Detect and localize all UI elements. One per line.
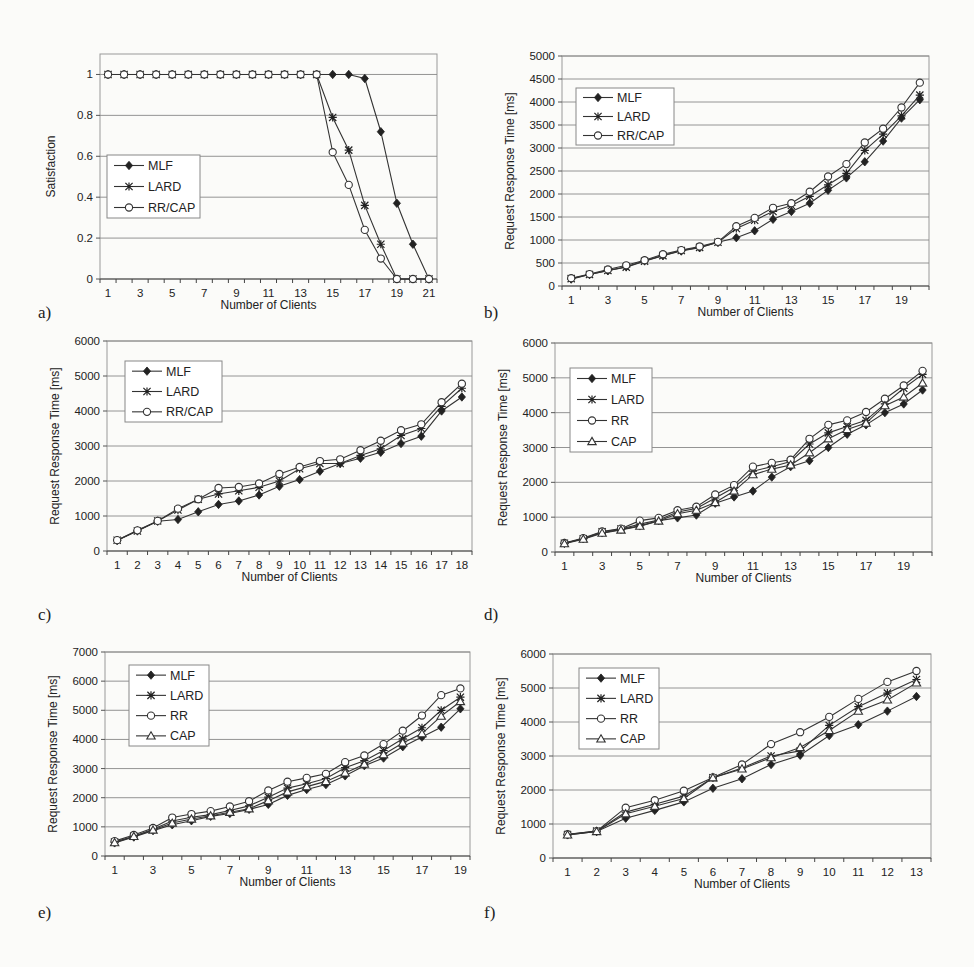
data-point	[738, 775, 745, 783]
y-tick-label: 6000	[74, 335, 100, 347]
x-tick-label: 19	[390, 287, 403, 299]
x-tick-label: 3	[150, 864, 156, 876]
data-point	[680, 787, 687, 794]
x-tick-label: 17	[416, 864, 429, 876]
data-point	[296, 475, 303, 483]
y-tick-label: 5000	[522, 372, 548, 384]
y-tick-label: 3000	[520, 750, 546, 762]
legend-box	[129, 665, 209, 746]
x-tick-label: 4	[175, 559, 182, 571]
panel-label-a: a)	[38, 303, 51, 323]
y-tick-label: 5000	[74, 370, 100, 382]
x-tick-label: 15	[377, 864, 390, 876]
legend-label: LARD	[611, 393, 644, 407]
data-point	[749, 463, 756, 470]
data-point	[377, 255, 384, 262]
legend-marker-circle-icon	[143, 408, 150, 415]
panel-label-e: e)	[38, 903, 51, 923]
data-point	[418, 712, 425, 719]
x-tick-label: 1	[561, 560, 567, 572]
chart-b: 0500100015002000250030003500400045005000…	[487, 30, 974, 300]
x-tick-label: 5	[188, 864, 194, 876]
legend: MLFLARDRR/CAP	[107, 155, 200, 218]
y-tick-label: 500	[536, 257, 555, 269]
y-tick-label: 0	[94, 545, 100, 557]
legend-label: LARD	[617, 110, 650, 124]
x-tick-label: 17	[358, 287, 371, 299]
data-point	[769, 204, 776, 211]
data-point	[855, 695, 862, 702]
x-tick-label: 3	[599, 560, 605, 572]
data-point	[824, 173, 831, 180]
data-point	[235, 483, 242, 490]
y-tick-label: 4000	[529, 96, 555, 108]
x-tick-label: 1	[568, 294, 574, 306]
data-point	[134, 527, 141, 534]
legend-marker-circle-icon	[588, 417, 595, 424]
x-tick-label: 1	[105, 287, 111, 299]
data-point	[297, 71, 304, 78]
data-point	[361, 226, 368, 233]
chart-c: 0100020003000400050006000123456789101112…	[0, 330, 490, 600]
data-point	[217, 71, 224, 78]
chart-panel-e: 0100020003000400050006000700013579111315…	[0, 630, 490, 900]
data-point	[862, 408, 869, 415]
y-axis-title: Request Response Time [ms]	[494, 677, 508, 834]
y-tick-label: 3000	[74, 440, 100, 452]
y-tick-label: 2000	[74, 475, 100, 487]
y-tick-label: 6000	[522, 337, 548, 349]
x-tick-label: 2	[134, 559, 140, 571]
x-tick-label: 5	[169, 287, 175, 299]
data-point	[880, 125, 887, 132]
panel-label-b: b)	[484, 303, 498, 323]
data-point	[281, 71, 288, 78]
data-point	[712, 491, 719, 498]
data-point	[169, 71, 176, 78]
legend-marker-asterisk-icon	[143, 387, 151, 395]
x-axis-title: Number of Clients	[697, 305, 793, 319]
data-point	[345, 181, 352, 188]
data-point	[586, 270, 593, 277]
data-point	[714, 238, 721, 245]
legend-label: LARD	[148, 180, 181, 194]
data-point	[733, 234, 740, 242]
data-point	[276, 470, 283, 477]
y-tick-label: 1500	[529, 211, 555, 223]
x-tick-label: 7	[674, 560, 680, 572]
data-point	[919, 386, 926, 394]
data-point	[751, 227, 758, 235]
data-point	[898, 104, 905, 111]
data-point	[881, 402, 889, 409]
data-point	[361, 74, 368, 82]
data-point	[174, 505, 181, 512]
data-point	[861, 139, 868, 146]
y-tick-label: 3000	[72, 763, 98, 775]
chart-panel-b: 0500100015002000250030003500400045005000…	[487, 30, 974, 300]
x-tick-label: 9	[797, 866, 803, 878]
data-point	[806, 435, 813, 442]
y-tick-label: 0	[549, 280, 555, 292]
data-point	[458, 380, 465, 387]
data-point	[215, 484, 222, 491]
x-tick-label: 17	[435, 559, 448, 571]
x-tick-label: 7	[678, 294, 684, 306]
y-tick-label: 3500	[529, 119, 555, 131]
data-point	[916, 79, 923, 86]
y-tick-label: 0.4	[77, 191, 94, 203]
x-tick-label: 6	[215, 559, 221, 571]
legend-label: LARD	[166, 385, 199, 399]
data-point	[861, 146, 869, 154]
data-point	[357, 447, 364, 454]
x-axis-title: Number of Clients	[694, 877, 790, 891]
data-point	[393, 199, 400, 207]
y-axis-title: Request Response Time [ms]	[496, 369, 510, 526]
x-tick-label: 19	[454, 864, 467, 876]
data-point	[377, 437, 384, 444]
data-point	[825, 443, 832, 451]
legend-marker-circle-icon	[594, 132, 601, 139]
data-point	[733, 223, 740, 230]
x-tick-label: 17	[860, 560, 873, 572]
data-point	[881, 408, 888, 416]
data-point	[623, 262, 630, 269]
y-tick-label: 3000	[522, 442, 548, 454]
